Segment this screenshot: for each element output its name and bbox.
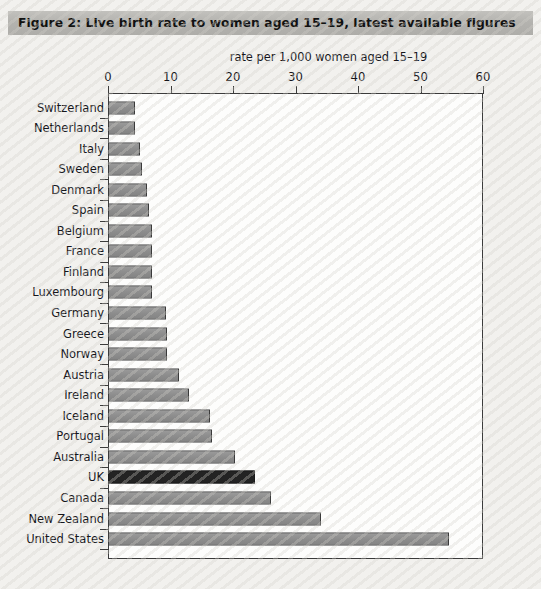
x-tick-label-20: 20	[226, 70, 241, 84]
bar-denmark	[108, 183, 147, 196]
y-tick-4	[100, 200, 109, 201]
x-tick-label-40: 40	[351, 70, 366, 84]
x-tick-label-10: 10	[163, 70, 178, 84]
y-tick-18	[100, 488, 109, 489]
y-tick-10	[100, 323, 109, 324]
bar-chart: 0102030405060 SwitzerlandNetherlandsItal…	[0, 0, 541, 589]
category-label-luxembourg: Luxembourg	[8, 285, 104, 299]
bar-switzerland	[108, 101, 135, 114]
category-label-sweden: Sweden	[8, 162, 104, 176]
category-label-finland: Finland	[8, 265, 104, 279]
category-label-spain: Spain	[8, 203, 104, 217]
y-tick-3	[100, 179, 109, 180]
plot-area	[108, 93, 483, 559]
category-label-portugal: Portugal	[8, 429, 104, 443]
bar-italy	[108, 142, 140, 155]
bar-norway	[108, 348, 167, 361]
x-tick-50	[421, 86, 422, 94]
x-tick-20	[233, 86, 234, 94]
bar-uk	[108, 471, 255, 484]
bar-netherlands	[108, 122, 135, 135]
y-tick-19	[100, 508, 109, 509]
y-tick-7	[100, 262, 109, 263]
category-label-australia: Australia	[8, 450, 104, 464]
category-label-france: France	[8, 244, 104, 258]
y-tick-17	[100, 467, 109, 468]
y-tick-11	[100, 344, 109, 345]
category-label-new-zealand: New Zealand	[8, 512, 104, 526]
x-tick-label-30: 30	[288, 70, 303, 84]
category-label-netherlands: Netherlands	[8, 121, 104, 135]
category-label-switzerland: Switzerland	[8, 101, 104, 115]
category-label-greece: Greece	[8, 327, 104, 341]
y-tick-5	[100, 221, 109, 222]
category-label-uk: UK	[8, 470, 104, 484]
bar-spain	[108, 204, 149, 217]
y-tick-13	[100, 385, 109, 386]
y-tick-12	[100, 364, 109, 365]
x-tick-label-60: 60	[476, 70, 491, 84]
y-tick-15	[100, 426, 109, 427]
y-tick-2	[100, 159, 109, 160]
category-label-united-states: United States	[8, 532, 104, 546]
y-tick-14	[100, 405, 109, 406]
y-tick-1	[100, 138, 109, 139]
bar-greece	[108, 327, 167, 340]
bar-finland	[108, 265, 152, 278]
bar-australia	[108, 450, 235, 463]
bar-portugal	[108, 430, 212, 443]
bar-new-zealand	[108, 512, 321, 525]
bar-sweden	[108, 163, 142, 176]
bar-luxembourg	[108, 286, 152, 299]
x-tick-10	[171, 86, 172, 94]
category-label-italy: Italy	[8, 142, 104, 156]
x-tick-60	[483, 86, 484, 94]
category-label-belgium: Belgium	[8, 224, 104, 238]
x-tick-label-50: 50	[413, 70, 428, 84]
y-tick-21	[100, 549, 109, 550]
category-label-germany: Germany	[8, 306, 104, 320]
y-tick-6	[100, 241, 109, 242]
category-label-canada: Canada	[8, 491, 104, 505]
bar-united-states	[108, 533, 449, 546]
bar-canada	[108, 491, 271, 504]
bar-iceland	[108, 409, 210, 422]
y-tick-9	[100, 303, 109, 304]
x-tick-40	[358, 86, 359, 94]
y-tick-8	[100, 282, 109, 283]
x-tick-0	[108, 86, 109, 94]
category-label-denmark: Denmark	[8, 183, 104, 197]
category-label-iceland: Iceland	[8, 409, 104, 423]
y-tick-20	[100, 529, 109, 530]
y-tick-0	[100, 118, 109, 119]
x-tick-label-0: 0	[104, 70, 111, 84]
x-tick-30	[296, 86, 297, 94]
bar-germany	[108, 307, 166, 320]
bar-france	[108, 245, 152, 258]
category-label-austria: Austria	[8, 368, 104, 382]
bar-belgium	[108, 224, 152, 237]
y-tick-16	[100, 447, 109, 448]
bar-austria	[108, 368, 179, 381]
bar-ireland	[108, 389, 189, 402]
category-label-norway: Norway	[8, 347, 104, 361]
category-label-ireland: Ireland	[8, 388, 104, 402]
